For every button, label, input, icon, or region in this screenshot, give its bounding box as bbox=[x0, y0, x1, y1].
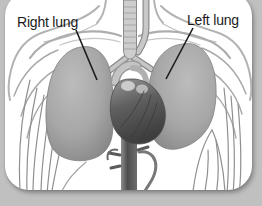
right-lung-shape bbox=[46, 47, 113, 161]
trachea-shape bbox=[109, 0, 151, 71]
right-lung-label: Right lung bbox=[17, 15, 78, 30]
lungs-anatomy-figure: Right lung Left lung bbox=[0, 0, 262, 206]
left-lung-label: Left lung bbox=[187, 13, 239, 28]
